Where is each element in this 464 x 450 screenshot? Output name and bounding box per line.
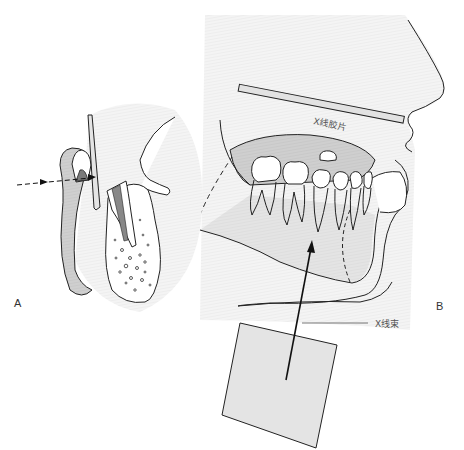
panel-label-b: B xyxy=(436,300,443,312)
dental-radiography-diagram: X线胶片 xyxy=(0,0,464,450)
molar-2 xyxy=(283,162,309,184)
incisor xyxy=(364,172,372,189)
bone-fragment xyxy=(320,151,336,161)
dashed-arrow-head-icon xyxy=(40,179,48,185)
panel-a xyxy=(17,104,202,312)
molar-1 xyxy=(252,156,281,182)
panel-label-a: A xyxy=(14,297,21,309)
canine xyxy=(350,172,362,189)
premolar-1 xyxy=(312,170,330,188)
premolar-2 xyxy=(333,172,348,190)
xray-tube xyxy=(222,323,337,448)
beam-label: X线束 xyxy=(375,317,399,330)
